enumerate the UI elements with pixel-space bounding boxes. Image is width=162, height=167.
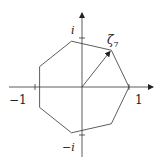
label-one: 1: [135, 93, 143, 107]
zeta-subscript: 7: [114, 40, 119, 49]
zeta-vector-arrow: [82, 52, 110, 88]
diagram-canvas: i −i −1 1 ζ7: [0, 0, 162, 167]
label-neg-one: −1: [9, 93, 27, 107]
label-zeta: ζ7: [107, 33, 119, 49]
label-i: i: [71, 24, 75, 37]
label-neg-i: −i: [62, 141, 75, 154]
